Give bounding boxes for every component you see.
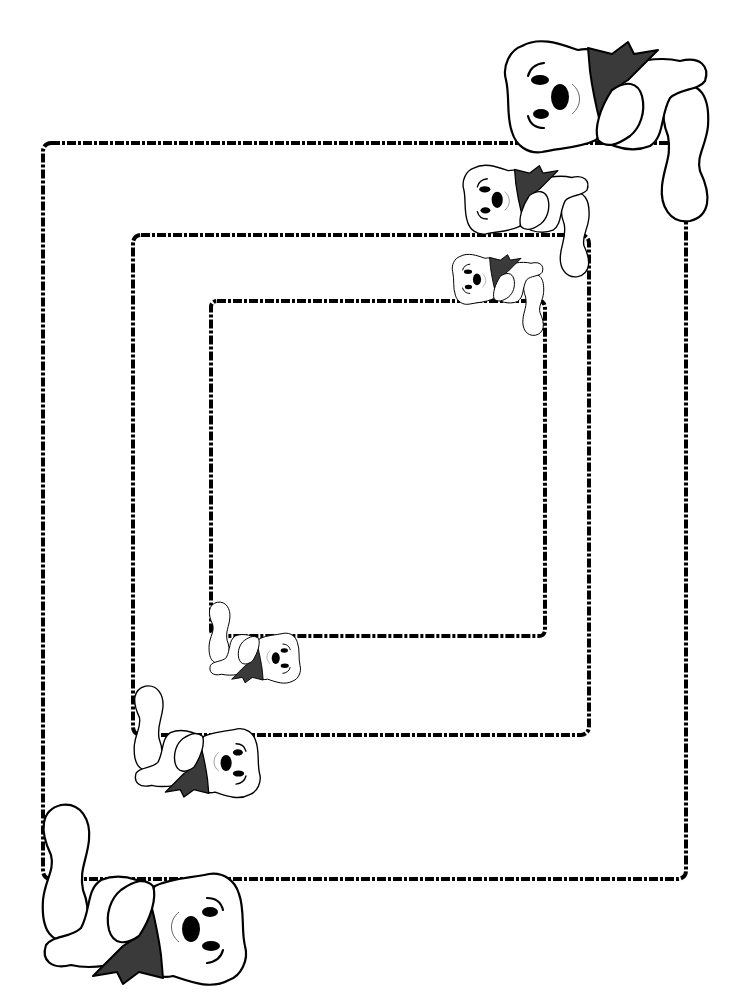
middle-frame	[133, 235, 589, 735]
frames-layer	[43, 143, 686, 879]
bears-layer	[43, 41, 709, 984]
bear-top-small-icon	[452, 254, 543, 335]
inner-frame	[211, 301, 545, 636]
bear-bottom-medium-icon	[134, 686, 260, 798]
bear-bottom-large-icon	[43, 805, 246, 985]
bear-bottom-small-icon	[209, 602, 300, 683]
coloring-page-canvas	[0, 0, 732, 998]
